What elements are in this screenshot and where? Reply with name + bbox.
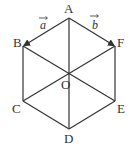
svg-text:a: a — [40, 18, 46, 32]
vector-a-arrow — [24, 18, 69, 46]
vector-label-b: b — [90, 15, 99, 33]
vertex-label-e: E — [117, 101, 125, 116]
hexagon-diagram: A B C D E F O a b — [0, 0, 132, 148]
vertex-label-d: D — [64, 131, 73, 146]
vertex-label-c: C — [12, 101, 21, 116]
center-label-o: O — [61, 77, 70, 92]
vertex-label-f: F — [117, 35, 124, 50]
edge-d-e — [69, 101, 115, 129]
vertex-label-a: A — [64, 1, 74, 16]
svg-text:b: b — [92, 18, 98, 32]
edge-c-d — [23, 101, 69, 129]
vector-label-a: a — [39, 17, 48, 33]
vertex-label-b: B — [13, 35, 22, 50]
